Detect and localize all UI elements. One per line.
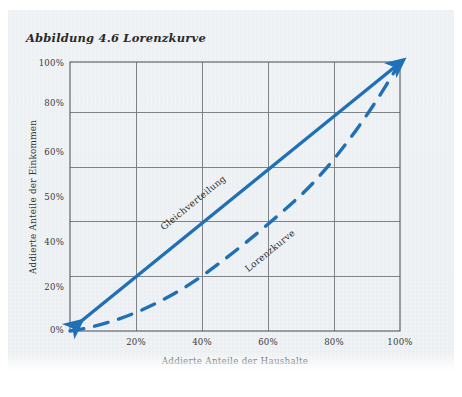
- figure-container: Abbildung 4.6 Lorenzkurve: [0, 0, 462, 397]
- x-tick-label: 20%: [126, 337, 146, 347]
- y-tick-label: 100%: [39, 58, 64, 68]
- y-tick-label: 20%: [44, 282, 64, 292]
- y-tick-label: 80%: [44, 98, 64, 108]
- y-tick-label: 60%: [44, 147, 64, 157]
- x-tick-label: 40%: [192, 337, 212, 347]
- paper-bottom-fade: [8, 352, 454, 377]
- y-axis-title: Addierte Anteile der Einkommen: [28, 120, 38, 275]
- x-tick-label: 60%: [258, 337, 278, 347]
- x-tick-label: 80%: [324, 337, 344, 347]
- x-axis-tick-labels: 20% 40% 60% 80% 100%: [126, 337, 413, 347]
- y-tick-label: 40%: [44, 237, 64, 247]
- annotation-gleichverteilung: Gleichverteilung: [159, 173, 228, 232]
- y-tick-label: 0%: [50, 325, 64, 335]
- lorenz-curve-chart: 100% 80% 60% 50% 40% 20% 0% 20% 40% 60% …: [0, 0, 462, 397]
- y-tick-label: 50%: [44, 192, 64, 202]
- y-axis-tick-labels: 100% 80% 60% 50% 40% 20% 0%: [39, 58, 64, 336]
- series-gleichverteilung: [74, 66, 396, 327]
- annotation-lorenzkurve: Lorenzkurve: [243, 228, 297, 274]
- x-tick-label: 100%: [387, 337, 412, 347]
